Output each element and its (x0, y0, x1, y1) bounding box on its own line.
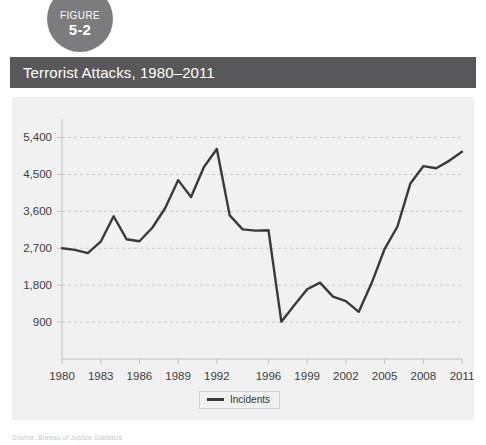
x-axis-tick-marks (62, 359, 462, 364)
x-tick-label: 1992 (204, 370, 230, 382)
y-tick-label: 5,400 (23, 131, 52, 143)
y-axis-tick-labels: 9001,8002,7003,6004,5005,400 (23, 131, 52, 328)
line-chart: 9001,8002,7003,6004,5005,400 19801983198… (12, 97, 474, 420)
x-tick-label: 2005 (372, 370, 398, 382)
figure-title-bar: Terrorist Attacks, 1980–2011 (10, 57, 476, 88)
y-tick-label: 1,800 (23, 279, 52, 291)
y-tick-label: 2,700 (23, 242, 52, 254)
chart-panel: 9001,8002,7003,6004,5005,400 19801983198… (12, 97, 474, 420)
x-tick-label: 1983 (88, 370, 114, 382)
figure-badge-number: 5-2 (69, 21, 91, 38)
y-tick-label: 900 (33, 316, 52, 328)
x-tick-label: 2002 (333, 370, 359, 382)
x-tick-label: 1999 (294, 370, 320, 382)
legend-label-incidents: Incidents (230, 394, 270, 405)
y-tick-label: 3,600 (23, 205, 52, 217)
x-tick-label: 1986 (127, 370, 153, 382)
x-axis-tick-labels: 1980198319861989199219961999200220052008… (49, 370, 474, 382)
y-tick-label: 4,500 (23, 168, 52, 180)
y-axis-tick-marks (57, 137, 62, 322)
figure-badge: FIGURE 5-2 (47, 0, 113, 52)
x-tick-label: 1989 (165, 370, 191, 382)
x-tick-label: 1996 (256, 370, 282, 382)
x-tick-label: 1980 (49, 370, 75, 382)
x-tick-label: 2008 (410, 370, 436, 382)
source-note: Source: Bureau of Justice Statistics (12, 434, 482, 441)
figure-badge-word: FIGURE (60, 10, 100, 21)
chart-legend: Incidents (199, 391, 280, 409)
figure-title: Terrorist Attacks, 1980–2011 (10, 64, 215, 81)
x-tick-label: 2011 (450, 370, 474, 382)
legend-swatch-incidents (207, 398, 224, 401)
